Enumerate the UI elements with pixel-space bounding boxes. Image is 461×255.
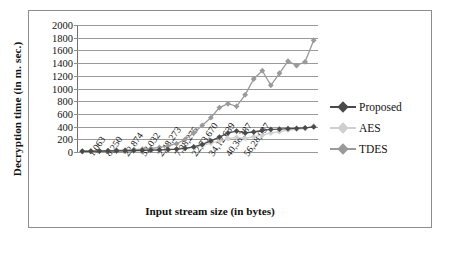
y-tick-label: 1000	[21, 83, 73, 94]
legend-label: TDES	[359, 143, 388, 155]
plot-area: 0200400600800100012001400160018002000 1,…	[78, 25, 318, 152]
data-point-marker	[165, 147, 171, 153]
data-point-marker	[174, 146, 180, 152]
series-line	[82, 40, 313, 151]
legend-swatch-icon	[330, 102, 356, 112]
legend-item-tdes[interactable]: TDES	[330, 138, 426, 159]
data-point-marker	[191, 144, 197, 150]
data-series-layer	[78, 25, 318, 152]
y-tick-label: 600	[21, 108, 73, 119]
data-point-marker	[225, 136, 231, 142]
y-tick-label: 400	[21, 121, 73, 132]
chart-legend: ProposedAESTDES	[330, 96, 426, 159]
data-point-marker	[174, 141, 180, 147]
y-tick-label: 2000	[21, 20, 73, 31]
data-point-marker	[268, 127, 274, 133]
series-tdes	[79, 37, 316, 154]
data-point-marker	[242, 135, 248, 141]
data-point-marker	[234, 128, 240, 134]
data-point-marker	[234, 134, 240, 140]
data-point-marker	[294, 63, 300, 69]
y-tick-label: 1200	[21, 70, 73, 81]
y-tick-label: 1800	[21, 32, 73, 43]
x-axis-title: Input stream size (in bytes)	[60, 205, 360, 217]
y-tick-label: 1400	[21, 58, 73, 69]
y-tick-label: 1600	[21, 45, 73, 56]
data-point-marker	[294, 125, 300, 131]
data-point-marker	[217, 134, 223, 140]
data-point-marker	[225, 130, 231, 136]
data-point-marker	[251, 129, 257, 135]
data-point-marker	[182, 145, 188, 151]
data-point-marker	[311, 37, 317, 43]
data-point-marker	[225, 101, 231, 107]
y-tick-label: 0	[21, 147, 73, 158]
legend-swatch-icon	[330, 123, 356, 133]
data-point-marker	[302, 59, 308, 65]
y-tick-label: 200	[21, 134, 73, 145]
legend-label: AES	[359, 122, 381, 134]
data-point-marker	[311, 124, 317, 130]
data-point-marker	[242, 130, 248, 136]
data-point-marker	[302, 125, 308, 131]
legend-label: Proposed	[359, 101, 402, 113]
y-tick-mark	[74, 152, 78, 153]
chart-figure: Decryption time (in m. sec.) 02004006008…	[0, 0, 461, 255]
y-tick-label: 800	[21, 96, 73, 107]
legend-item-aes[interactable]: AES	[330, 117, 426, 138]
legend-item-proposed[interactable]: Proposed	[330, 96, 426, 117]
legend-swatch-icon	[330, 144, 356, 154]
data-point-marker	[259, 128, 265, 134]
